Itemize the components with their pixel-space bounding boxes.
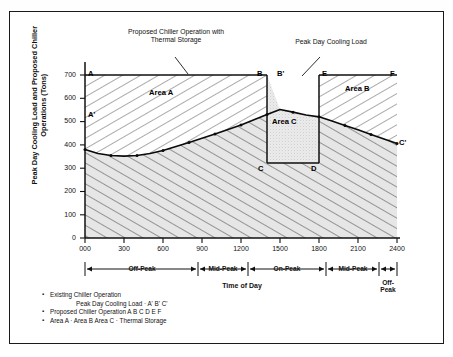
legend: Existing Chiller Operation Peak Day Cool… — [42, 291, 292, 325]
legend-item-areas: Area A · Area B Area C · Thermal Storage — [42, 317, 292, 326]
y-tick-500: 500 — [52, 117, 76, 124]
point-label-A: A — [88, 69, 93, 78]
y-tick-300: 300 — [52, 164, 76, 171]
point-label-A-prime: A' — [88, 110, 95, 119]
x-tick-900: 900 — [188, 245, 216, 252]
point-label-B-prime: B' — [277, 69, 284, 78]
point-label-F: F — [390, 69, 395, 78]
x-tick-2100: 2100 — [344, 245, 372, 252]
annotation-leader-lines — [175, 57, 320, 76]
region-label-area-b: Area B — [345, 84, 369, 93]
point-label-B: B — [257, 69, 262, 78]
legend-item-proposed: Proposed Chiller Operation A B C D E F — [42, 308, 292, 317]
period-mid-peak-2: Mid-Peak — [325, 265, 381, 272]
peak-day-load-annotation: Peak Day Cooling Load — [295, 38, 367, 46]
y-axis-title: Peak Day Cooling Load and Proposed Chill… — [30, 10, 48, 200]
y-tick-0: 0 — [52, 234, 76, 241]
chart-page: Peak Day Cooling Load and Proposed Chill… — [0, 0, 453, 357]
region-label-area-a: Area A — [149, 88, 173, 97]
period-off-peak-1: Off-Peak — [112, 265, 172, 272]
y-tick-200: 200 — [52, 187, 76, 194]
x-tick-300: 300 — [110, 245, 138, 252]
region-label-area-c: Area C — [272, 117, 296, 126]
period-on-peak: On-Peak — [259, 265, 315, 272]
x-tick-2400: 2400 — [383, 245, 411, 252]
proposed-chiller-annotation: Proposed Chiller Operation with Thermal … — [123, 28, 229, 45]
x-tick-1500: 1500 — [266, 245, 294, 252]
y-tick-100: 100 — [52, 211, 76, 218]
point-label-C-prime: C' — [399, 138, 406, 147]
period-mid-peak-1: Mid-Peak — [195, 265, 251, 272]
legend-item-existing: Existing Chiller Operation — [42, 291, 292, 300]
legend-item-peak-load: Peak Day Cooling Load · A' B' C' — [42, 300, 292, 309]
x-tick-1200: 1200 — [227, 245, 255, 252]
x-tick-000: 000 — [71, 245, 99, 252]
x-axis-title: Time of Day — [202, 282, 282, 289]
period-off-peak-2: Off- Peak — [375, 279, 401, 294]
y-tick-600: 600 — [52, 94, 76, 101]
x-tick-1800: 1800 — [305, 245, 333, 252]
y-tick-400: 400 — [52, 141, 76, 148]
x-tick-600: 600 — [149, 245, 177, 252]
point-label-C: C — [258, 164, 263, 173]
y-tick-700: 700 — [52, 71, 76, 78]
point-label-E: E — [322, 69, 327, 78]
point-label-D: D — [311, 164, 316, 173]
